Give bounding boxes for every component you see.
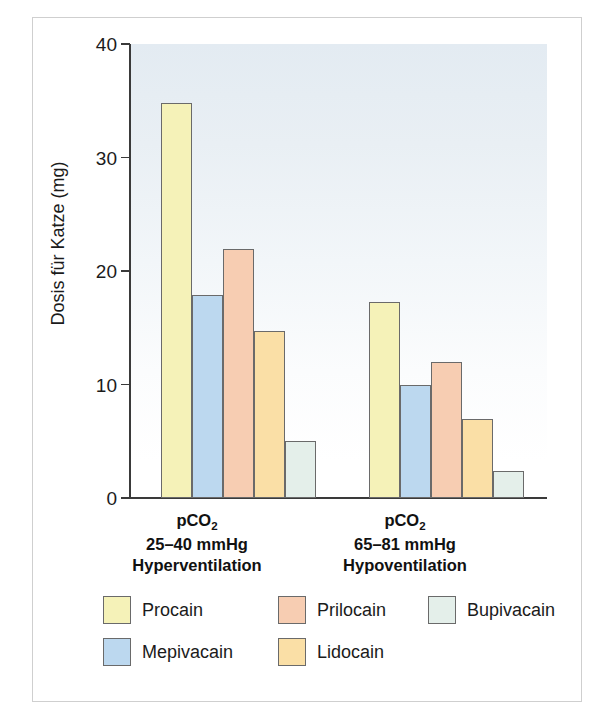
bar-chart: 010203040 Dosis für Katze (mg) pCO225–40…: [33, 18, 583, 703]
legend-swatch-mepivacain: [103, 638, 131, 666]
subscript: 2: [211, 520, 217, 532]
legend-label-bupivacain: Bupivacain: [467, 600, 555, 621]
bar-lidocain-group2: [462, 419, 493, 498]
legend-label-prilocain: Prilocain: [317, 600, 386, 621]
legend-label-procain: Procain: [142, 600, 203, 621]
bar-prilocain-group1: [223, 249, 254, 498]
bar-prilocain-group2: [431, 362, 462, 498]
legend-row-2: MepivacainLidocain: [103, 638, 553, 680]
y-tick-label-0: 0: [67, 489, 117, 508]
subscript: 2: [419, 520, 425, 532]
bar-lidocain-group1: [254, 331, 285, 498]
x-group-label-2: pCO265–81 mmHgHypoventilation: [275, 510, 535, 576]
y-tick-0: [121, 497, 130, 499]
bar-procain-group1: [161, 103, 192, 498]
legend-label-mepivacain: Mepivacain: [142, 642, 233, 663]
bar-bupivacain-group1: [285, 441, 316, 498]
y-tick-10: [121, 384, 130, 386]
legend-item-lidocain[interactable]: Lidocain: [278, 638, 384, 666]
legend-swatch-prilocain: [278, 596, 306, 624]
y-tick-label-10: 10: [67, 376, 117, 395]
bar-bupivacain-group2: [493, 471, 524, 498]
x-group-label-line3: Hypoventilation: [275, 555, 535, 576]
legend-swatch-lidocain: [278, 638, 306, 666]
bar-mepivacain-group1: [192, 295, 223, 498]
legend-label-lidocain: Lidocain: [317, 642, 384, 663]
y-tick-label-40: 40: [67, 35, 117, 54]
chart-legend: ProcainPrilocainBupivacain MepivacainLid…: [103, 596, 553, 680]
legend-item-prilocain[interactable]: Prilocain: [278, 596, 386, 624]
legend-swatch-procain: [103, 596, 131, 624]
y-tick-30: [121, 157, 130, 159]
y-tick-20: [121, 270, 130, 272]
bar-mepivacain-group2: [400, 385, 431, 499]
x-group-label-line1: pCO2: [275, 510, 535, 534]
legend-item-mepivacain[interactable]: Mepivacain: [103, 638, 233, 666]
y-tick-40: [121, 43, 130, 45]
bar-procain-group2: [369, 302, 400, 498]
legend-item-bupivacain[interactable]: Bupivacain: [428, 596, 555, 624]
figure-panel: 010203040 Dosis für Katze (mg) pCO225–40…: [32, 17, 582, 702]
x-group-label-line2: 65–81 mmHg: [275, 534, 535, 555]
legend-item-procain[interactable]: Procain: [103, 596, 203, 624]
y-axis-title: Dosis für Katze (mg): [48, 79, 69, 409]
bar-group-1: [161, 44, 316, 498]
legend-swatch-bupivacain: [428, 596, 456, 624]
y-tick-label-20: 20: [67, 262, 117, 281]
y-tick-label-30: 30: [67, 149, 117, 168]
plot-area: [129, 44, 547, 498]
bar-group-2: [369, 44, 524, 498]
legend-row-1: ProcainPrilocainBupivacain: [103, 596, 553, 638]
